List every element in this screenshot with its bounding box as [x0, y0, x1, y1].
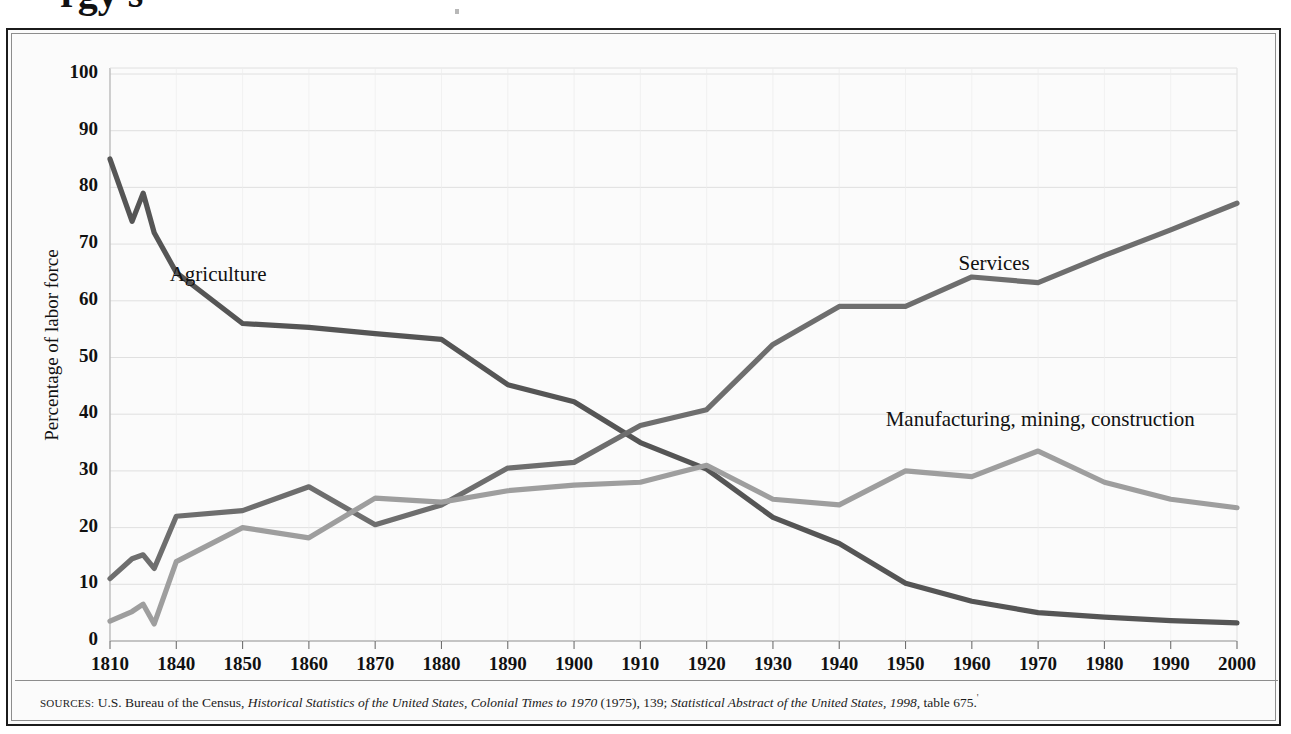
x-tick-label: 1980	[1072, 653, 1136, 675]
x-tick-label: 1860	[277, 653, 341, 675]
source-text-3: , table 675.	[917, 695, 977, 710]
x-tick-label: 1990	[1139, 653, 1203, 675]
x-tick-label: 1930	[741, 653, 805, 675]
y-tick-label: 90	[52, 118, 98, 140]
x-tick-label: 1920	[675, 653, 739, 675]
y-tick-label: 30	[52, 458, 98, 480]
y-tick-label: 60	[52, 288, 98, 310]
series-line-services	[110, 203, 1237, 578]
y-tick-label: 20	[52, 515, 98, 537]
source-text-1: U.S. Bureau of the Census,	[94, 695, 247, 710]
clipped-title-sliver: rgy s	[0, 0, 1291, 22]
y-tick-label: 50	[52, 345, 98, 367]
series-label-manufacturing: Manufacturing, mining, construction	[886, 407, 1195, 432]
x-tick-label: 1850	[211, 653, 275, 675]
y-tick-label: 0	[52, 628, 98, 650]
x-tick-label: 1880	[409, 653, 473, 675]
x-tick-label: 1840	[144, 653, 208, 675]
stray-mark: '	[977, 692, 979, 703]
y-tick-label: 100	[52, 61, 98, 83]
source-note: SOURCES: U.S. Bureau of the Census, Hist…	[40, 692, 1255, 711]
series-label-agriculture: Agriculture	[170, 262, 267, 287]
x-tick-label: 1810	[78, 653, 142, 675]
source-italic-1: Historical Statistics of the United Stat…	[248, 695, 598, 710]
source-divider	[15, 680, 1278, 681]
y-tick-label: 40	[52, 401, 98, 423]
source-italic-2: Statistical Abstract of the United State…	[671, 695, 917, 710]
source-text-2: (1975), 139;	[597, 695, 671, 710]
source-label: SOURCES:	[40, 697, 94, 709]
x-tick-label: 1870	[343, 653, 407, 675]
x-tick-label: 1890	[476, 653, 540, 675]
figure-border-inner: Percentage of labor force 01020304050607…	[11, 33, 1276, 721]
x-tick-label: 1950	[874, 653, 938, 675]
x-tick-label: 1910	[608, 653, 672, 675]
chart-plot-region: Percentage of labor force 01020304050607…	[12, 34, 1287, 684]
clipped-title-text: rgy s	[60, 0, 143, 17]
x-tick-label: 2000	[1205, 653, 1269, 675]
y-tick-label: 70	[52, 231, 98, 253]
series-line-manufacturing	[110, 451, 1237, 624]
x-tick-label: 1900	[542, 653, 606, 675]
scan-speck	[455, 9, 459, 14]
x-tick-label: 1970	[1006, 653, 1070, 675]
series-line-agriculture	[110, 159, 1237, 623]
figure-border-outer: Percentage of labor force 01020304050607…	[6, 28, 1281, 726]
line-chart-svg	[12, 34, 1287, 684]
x-tick-label: 1940	[807, 653, 871, 675]
series-label-services: Services	[959, 251, 1030, 276]
x-tick-label: 1960	[940, 653, 1004, 675]
y-tick-label: 10	[52, 571, 98, 593]
y-tick-label: 80	[52, 174, 98, 196]
